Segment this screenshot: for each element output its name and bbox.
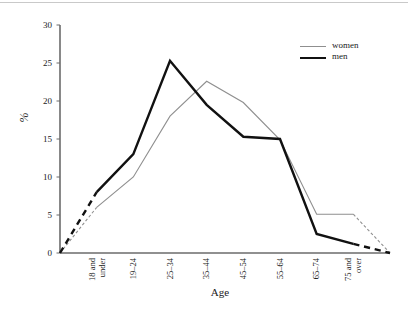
x-axis-title: Age: [150, 286, 290, 298]
y-tick-label: 5: [20, 211, 52, 220]
legend-item-women: women: [300, 40, 359, 51]
x-tick-label: 25–34: [166, 258, 176, 306]
x-tick-label: 65–74: [312, 258, 322, 306]
x-tick-label: 75 andover: [344, 258, 363, 306]
series-women: [60, 81, 390, 253]
legend-item-men: men: [300, 51, 359, 62]
x-tick-label: 35–44: [202, 258, 212, 306]
series-men: [60, 61, 390, 253]
x-tick-label: 18 andunder: [88, 258, 107, 306]
y-tick-label: 15: [20, 135, 52, 144]
y-tick-label: 25: [20, 59, 52, 68]
x-tick-label: 45–54: [239, 258, 249, 306]
chart-legend: women men: [300, 40, 359, 62]
y-axis-title: %: [17, 107, 32, 129]
x-tick-label: 55–64: [276, 258, 286, 306]
series-men-lead-in: [60, 192, 97, 253]
series-men-line: [97, 61, 354, 244]
y-tick-label: 30: [20, 21, 52, 30]
legend-label-women: women: [332, 40, 359, 51]
series-women-lead-out: [353, 214, 390, 253]
x-tick-label: 19–24: [129, 258, 139, 306]
y-tick-label: 20: [20, 97, 52, 106]
series-men-lead-out: [353, 244, 390, 253]
y-tick-label: 0: [20, 249, 52, 258]
series-women-lead-in: [60, 207, 97, 253]
chart-figure: 051015202530 18 andunder19–2425–3435–444…: [0, 0, 408, 316]
legend-label-men: men: [332, 51, 348, 62]
y-tick-label: 10: [20, 173, 52, 182]
